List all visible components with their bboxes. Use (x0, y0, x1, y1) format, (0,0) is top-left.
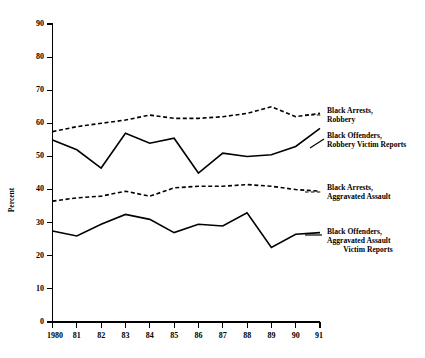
line-chart-canvas: 90 80 70 60 50 40 30 20 10 0 Percent (0, 0, 425, 358)
annotation-robbery-arrests-line1: Black Arrests, (327, 106, 373, 115)
ytick-label-80: 80 (36, 52, 44, 61)
ytick-label-0: 0 (40, 317, 44, 326)
annotation-robbery-offenders-line2: Robbery Victim Reports (327, 140, 406, 149)
y-axis-ticks (47, 24, 53, 322)
xtick-label-90: 90 (292, 331, 300, 340)
annotation-assault-offenders-line1: Black Offenders, (327, 227, 382, 236)
xtick-label-81: 81 (73, 331, 81, 340)
xtick-label-83: 83 (122, 331, 130, 340)
annotation-robbery-offenders-line1: Black Offenders, (327, 131, 382, 140)
annotation-assault-arrests-line1: Black Arrests, (327, 183, 373, 192)
annotation-assault-offenders-line3: Victim Reports (343, 245, 392, 254)
xtick-label-84: 84 (146, 331, 154, 340)
ytick-label-50: 50 (36, 151, 44, 160)
annotation-black-arrests-assault: Black Arrests, Aggravated Assault (305, 183, 391, 201)
annotation-black-offenders-robbery: Black Offenders, Robbery Victim Reports (310, 131, 406, 149)
ytick-label-20: 20 (36, 251, 44, 260)
series-black-arrests-robbery (53, 107, 321, 132)
ytick-label-60: 60 (36, 118, 44, 127)
xtick-label-86: 86 (195, 331, 203, 340)
series-black-arrests-aggravated-assault (53, 185, 321, 202)
leader-line-robbery-offenders (310, 139, 324, 148)
series-black-offenders-aggravated-assault-victim-reports (53, 213, 321, 248)
ytick-label-10: 10 (36, 284, 44, 293)
ytick-label-30: 30 (36, 218, 44, 227)
x-axis-ticks (53, 322, 321, 328)
y-axis-tick-labels: 90 80 70 60 50 40 30 20 10 0 (36, 19, 44, 326)
xtick-label-91: 91 (315, 331, 323, 340)
ytick-label-90: 90 (36, 19, 44, 28)
ytick-label-70: 70 (36, 85, 44, 94)
xtick-label-85: 85 (170, 331, 178, 340)
chart-figure: 90 80 70 60 50 40 30 20 10 0 Percent (0, 0, 425, 358)
xtick-label-88: 88 (243, 331, 251, 340)
annotation-assault-arrests-line2: Aggravated Assault (327, 192, 391, 201)
xtick-label-87: 87 (219, 331, 227, 340)
annotation-assault-offenders-line2: Aggravated Assault (327, 236, 391, 245)
xtick-label-82: 82 (97, 331, 105, 340)
annotation-robbery-arrests-line2: Robbery (327, 115, 355, 124)
x-axis-tick-labels: 1980 81 82 83 84 85 86 87 88 89 90 91 (47, 331, 323, 340)
xtick-label-89: 89 (268, 331, 276, 340)
ytick-label-40: 40 (36, 184, 44, 193)
series-black-offenders-robbery-victim-reports (53, 128, 321, 173)
xtick-label-1980: 1980 (47, 331, 63, 340)
y-axis-title: Percent (7, 187, 16, 212)
annotation-black-offenders-assault: Black Offenders, Aggravated Assault Vict… (305, 227, 393, 254)
